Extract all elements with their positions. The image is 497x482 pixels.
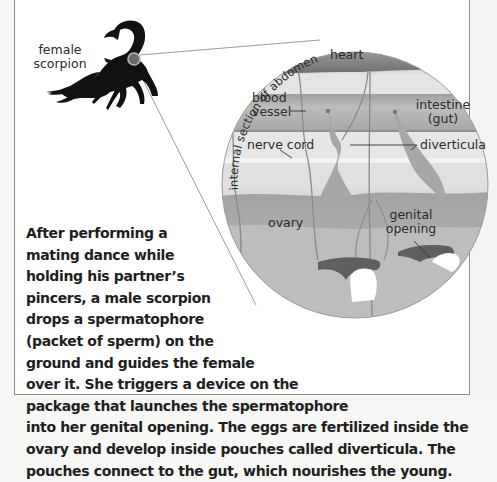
caption-line: (packet of sperm) on the xyxy=(26,331,468,353)
intestine-label: intestine (gut) xyxy=(408,98,478,126)
scorpion-label-line-1: female xyxy=(38,42,81,57)
nerve-cord-label: nerve cord xyxy=(247,138,314,152)
caption-line: package that launches the spermatophore xyxy=(26,396,468,418)
caption-text: After performing a mating dance while ho… xyxy=(26,223,468,482)
blood-vessel-label-line-1: blood xyxy=(252,90,287,105)
genital-opening-label-line-1: genital xyxy=(389,207,432,222)
caption-line: pouches connect to the gut, which nouris… xyxy=(26,461,468,482)
caption-line: pincers, a male scorpion xyxy=(26,288,468,310)
scorpion-label-line-2: scorpion xyxy=(33,56,86,71)
scorpion-label: female scorpion xyxy=(28,43,92,71)
intestine-label-line-1: intestine xyxy=(416,97,471,112)
heart-label: heart xyxy=(330,48,363,62)
caption-line: holding his partner’s xyxy=(26,266,468,288)
caption-line: drops a spermatophore xyxy=(26,309,468,331)
caption-line: mating dance while xyxy=(26,245,468,267)
caption-line: ovary and develop inside pouches called … xyxy=(26,439,468,461)
abdomen-highlight xyxy=(128,53,140,65)
blood-vessel-label: blood vessel xyxy=(252,91,291,119)
caption-line: into her genital opening. The eggs are f… xyxy=(26,417,468,439)
blood-vessel-label-line-2: vessel xyxy=(252,104,291,119)
caption-line: ground and guides the female xyxy=(26,353,468,375)
caption-line: over it. She triggers a device on the xyxy=(26,374,468,396)
caption-line: After performing a xyxy=(26,223,468,245)
diverticula-label: diverticula xyxy=(420,138,486,152)
zoom-line-top xyxy=(140,40,320,55)
intestine-label-line-2: (gut) xyxy=(428,111,459,126)
